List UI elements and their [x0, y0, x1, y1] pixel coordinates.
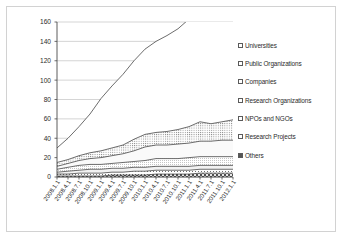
- legend-item[interactable]: Universities: [238, 40, 342, 50]
- chart-container: 020406080100120140160 2008.1.12008.4.120…: [0, 0, 345, 240]
- legend-item[interactable]: Companies: [238, 77, 342, 87]
- legend-item[interactable]: Research Organizations: [238, 95, 342, 105]
- y-tick-label: 160: [40, 18, 51, 25]
- y-tick-label: 40: [44, 135, 52, 142]
- y-tick-label: 120: [40, 57, 51, 64]
- legend-swatch-icon: [238, 153, 243, 158]
- y-tick-label: 0: [47, 173, 51, 180]
- y-tick-label: 80: [44, 96, 52, 103]
- y-axis-tick-labels: 020406080100120140160: [40, 18, 57, 180]
- legend-label: Research Organizations: [245, 97, 311, 104]
- legend-label: Public Organizations: [245, 60, 302, 67]
- series-areas: [57, 7, 233, 177]
- y-tick-label: 140: [40, 38, 51, 45]
- legend-label: Others: [245, 152, 264, 159]
- legend-label: Research Projects: [245, 133, 296, 140]
- legend-swatch-icon: [238, 134, 243, 139]
- legend-item[interactable]: Public Organizations: [238, 58, 342, 68]
- legend-label: NPOs and NGOs: [245, 115, 293, 122]
- y-tick-label: 100: [40, 77, 51, 84]
- legend-item[interactable]: Research Projects: [238, 132, 342, 142]
- y-tick-label: 20: [44, 154, 52, 161]
- legend-swatch-icon: [238, 61, 243, 66]
- legend-swatch-icon: [238, 43, 243, 48]
- legend-swatch-icon: [238, 98, 243, 103]
- legend-swatch-icon: [238, 116, 243, 121]
- legend-swatch-icon: [238, 79, 243, 84]
- legend-label: Universities: [245, 42, 277, 49]
- legend-label: Companies: [245, 78, 276, 85]
- y-tick-label: 60: [44, 115, 52, 122]
- legend-item[interactable]: Others: [238, 150, 342, 160]
- x-axis-tick-labels: 2008.1.12008.4.12008.7.12008.10.12009.1.…: [42, 178, 238, 205]
- chart-legend: UniversitiesPublic OrganizationsCompanie…: [238, 40, 342, 169]
- legend-item[interactable]: NPOs and NGOs: [238, 114, 342, 124]
